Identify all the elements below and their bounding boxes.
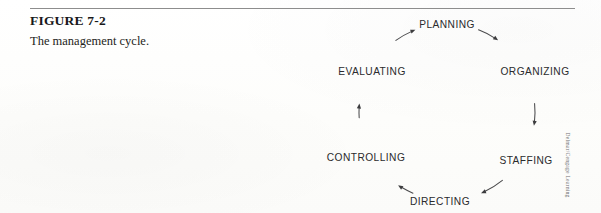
figure-number: FIGURE 7-2 [30,13,280,30]
figure-page: FIGURE 7-2 The management cycle. PLANNIN… [0,0,601,213]
arrowhead-into-planning [410,30,415,34]
cycle-arrow-evaluating-to-planning [396,31,412,40]
cycle-node-organizing: ORGANIZING [500,66,569,77]
arrowhead-into-directing [481,189,486,193]
management-cycle-diagram: PLANNINGORGANIZINGSTAFFINGDIRECTINGCONTR… [330,5,570,213]
arrowhead-into-organizing [493,36,498,41]
cycle-node-evaluating: EVALUATING [338,66,406,77]
arrowhead-into-staffing [533,121,537,126]
cycle-node-controlling: CONTROLLING [327,152,406,163]
publisher-credit: Delmar/Cengage Learning [561,123,575,207]
cycle-node-staffing: STAFFING [499,155,552,166]
cycle-arrow-directing-to-controlling [401,187,412,193]
cycle-arrow-organizing-to-staffing [534,104,535,122]
cycle-arrowhead-group [357,30,537,193]
cycle-arrow-planning-to-organizing [479,30,495,38]
cycle-label-group: PLANNINGORGANIZINGSTAFFINGDIRECTINGCONTR… [327,19,570,207]
arrowhead-into-evaluating [357,104,361,109]
cycle-arc-group [359,30,535,193]
cycle-node-directing: DIRECTING [410,196,470,207]
cycle-node-planning: PLANNING [419,19,475,30]
figure-title: The management cycle. [30,33,280,50]
figure-caption: FIGURE 7-2 The management cycle. [30,13,280,50]
publisher-credit-text: Delmar/Cengage Learning [565,132,571,197]
cycle-arrow-staffing-to-directing [485,180,503,191]
